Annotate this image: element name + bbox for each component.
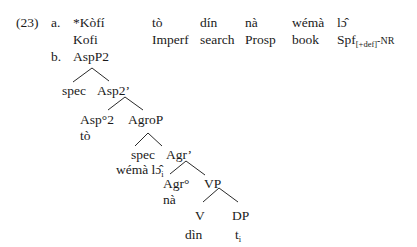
- word-spec-2: wémà lɔ̂i: [116, 163, 164, 181]
- node-vp: VP: [204, 177, 221, 191]
- branch-agrop-agrbar: [148, 133, 162, 146]
- branch-vp-dp: [219, 188, 238, 202]
- branch-agrbar-agrhead: [170, 161, 186, 174]
- node-asp-head: Asp°2: [80, 113, 114, 127]
- trace: ti: [235, 228, 241, 246]
- node-spec-1: spec: [62, 84, 86, 98]
- branch-agrbar-vp: [186, 161, 205, 175]
- branch-asp2bar-agrop: [125, 97, 143, 110]
- node-spec-2: spec: [131, 148, 155, 162]
- word-asp-head: tò: [80, 129, 91, 143]
- word-v: dìn: [185, 228, 202, 242]
- trace-index: i: [239, 234, 241, 244]
- branch-asp2p-asp2bar: [92, 68, 109, 81]
- syntax-tree-branches: [0, 0, 417, 247]
- node-agr-head: Agr°: [163, 177, 189, 191]
- branch-asp2bar-asphead: [108, 97, 125, 110]
- node-agrop: AgroP: [128, 113, 163, 127]
- node-v: V: [195, 209, 205, 223]
- word-agr-head: nà: [163, 193, 176, 207]
- word-spec-2-text: wémà lɔ̂: [116, 162, 161, 177]
- branch-asp2p-spec: [73, 68, 92, 82]
- branch-agrop-spec: [135, 133, 148, 146]
- node-asp2bar: Asp2’: [97, 84, 130, 98]
- node-asp2p: AspP2: [73, 50, 109, 64]
- node-agrbar: Agr’: [166, 148, 192, 162]
- node-dp: DP: [232, 209, 249, 223]
